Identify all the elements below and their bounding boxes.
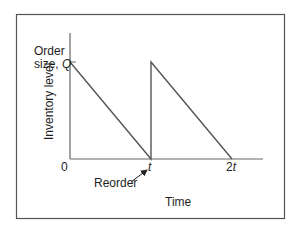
origin-label: 0 [61, 160, 68, 174]
tick-t-label: t [148, 160, 152, 174]
inventory-sawtooth-diagram: Order size, Q Inventory level 0 t 2t Reo… [0, 0, 302, 231]
reorder-label: Reorder [94, 176, 137, 190]
inventory-sawtooth-line [70, 62, 232, 159]
tick-2t-label: 2t [226, 160, 237, 174]
x-axis-label: Time [165, 195, 192, 209]
y-axis-label: Inventory level [42, 63, 56, 140]
order-size-label-line1: Order [34, 44, 65, 58]
